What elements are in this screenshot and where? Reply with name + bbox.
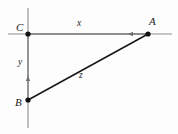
vertex-dot-A	[145, 31, 150, 36]
segment-x-arrowhead-icon	[128, 32, 133, 37]
segment-label-z: z	[79, 71, 83, 81]
segment-z-line	[28, 34, 148, 100]
vertex-label-a: A	[149, 16, 156, 27]
segment-y-arrowhead-icon	[26, 76, 30, 81]
segment-label-x: x	[77, 19, 81, 29]
vertex-label-b: B	[15, 97, 22, 108]
segment-label-y: y	[18, 58, 22, 68]
geometry-figure: A B C x y z	[0, 0, 178, 134]
vertex-label-c: C	[16, 22, 23, 33]
vertex-dot-B	[25, 97, 30, 102]
vertex-dot-C	[25, 31, 30, 36]
